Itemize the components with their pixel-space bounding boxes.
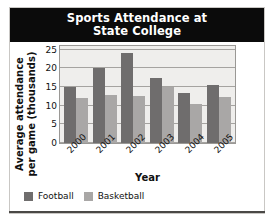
bar-group <box>121 46 145 143</box>
legend-item-football: Football <box>24 191 74 201</box>
bar-groups <box>60 46 235 143</box>
y-axis-tick-label: 10 <box>41 101 57 110</box>
bar-football-2005 <box>207 85 219 143</box>
y-axis-label-line-1: Average attendance <box>14 52 26 177</box>
chart-title-line-2: State College <box>67 25 207 38</box>
bar-group <box>150 46 174 143</box>
bar-football-2003 <box>150 78 162 143</box>
bar-group <box>207 46 231 143</box>
y-axis-tick-label: 20 <box>41 64 57 73</box>
y-axis-tick-labels: 0510152025 <box>41 44 57 148</box>
bar-football-2000 <box>64 87 76 143</box>
chart-figure: Sports Attendance at State College Avera… <box>0 0 274 222</box>
legend-label-football: Football <box>38 191 74 201</box>
bar-football-2004 <box>178 93 190 143</box>
legend-swatch-football <box>24 192 33 201</box>
bottom-rule <box>9 211 265 213</box>
legend-swatch-basketball <box>84 192 93 201</box>
chart-title-banner: Sports Attendance at State College <box>10 8 264 42</box>
y-axis-tick-label: 0 <box>41 139 57 148</box>
y-axis-tick-label: 25 <box>41 45 57 54</box>
y-axis-label-container: Average attendance per game (thousands) <box>11 44 41 184</box>
bar-football-2001 <box>93 68 105 143</box>
y-axis-label: Average attendance per game (thousands) <box>14 52 38 177</box>
bar-group <box>64 46 88 143</box>
x-axis-tick-labels: 200020012002200320042005 <box>59 146 236 172</box>
x-axis-label: Year <box>59 172 236 183</box>
bar-football-2002 <box>121 53 133 143</box>
y-axis-label-line-2: per game (thousands) <box>26 52 38 177</box>
bar-group <box>93 46 117 143</box>
y-axis-tick-label: 15 <box>41 83 57 92</box>
chart-legend: FootballBasketball <box>24 191 144 201</box>
y-axis-tick-label: 5 <box>41 120 57 129</box>
plot-area <box>59 45 236 144</box>
legend-item-basketball: Basketball <box>84 191 145 201</box>
legend-label-basketball: Basketball <box>98 191 145 201</box>
bar-group <box>178 46 202 143</box>
chart-title: Sports Attendance at State College <box>67 12 207 38</box>
